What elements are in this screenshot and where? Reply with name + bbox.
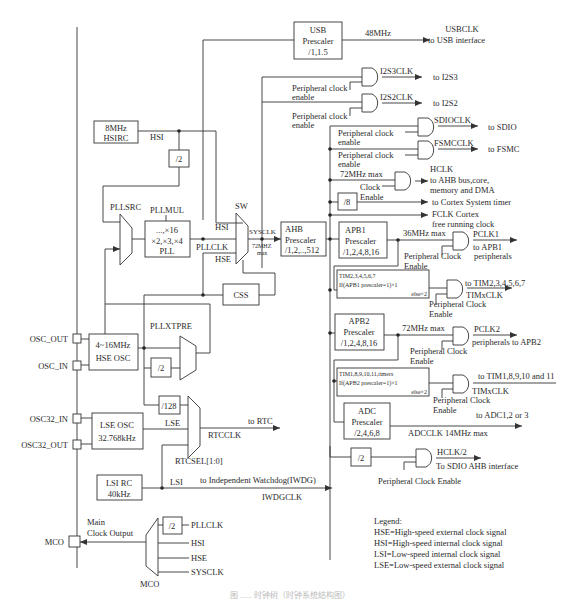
svg-text:else×2: else×2: [411, 389, 427, 395]
adc-prescaler: ADC Prescaler /2,4,6,8: [344, 403, 390, 439]
svg-text:peripherals to APB2: peripherals to APB2: [472, 337, 541, 347]
lse-osc-box: LSE OSC 32.768kHz: [92, 413, 143, 449]
hsi-rc-box: 8MHz HSIRC: [94, 121, 138, 143]
svg-text:Enable: Enable: [360, 192, 384, 202]
svg-text:/2: /2: [158, 363, 165, 373]
svg-text:Peripheral Clock Enable: Peripheral Clock Enable: [378, 476, 461, 486]
svg-text:If(APB2 prescaler=1)×1: If(APB2 prescaler=1)×1: [339, 380, 398, 387]
svg-text:SW: SW: [235, 201, 248, 211]
svg-text:Enable: Enable: [433, 405, 457, 415]
hse-osc-box: 4~16MHz HSE OSC: [89, 334, 138, 370]
mco-hse-label: HSE: [191, 553, 207, 563]
clock-tree-diagram: USB Prescaler /1,1.5 48MHz USBCLK to USB…: [0, 0, 586, 603]
lsi-label: LSI: [170, 477, 183, 487]
svg-text:/1,1.5: /1,1.5: [308, 47, 327, 57]
svg-text:PCLK1: PCLK1: [473, 229, 499, 239]
osc-out-pin: OSC_OUT: [30, 334, 81, 344]
svg-text:/2: /2: [176, 154, 183, 164]
main-clock-output-label: Main: [87, 517, 106, 527]
tim-apb1-gate: to TIM2,3,4,5,6,7 TIMxCLK Peripheral Clo…: [429, 278, 525, 319]
svg-text:to ADC1,2 or 3: to ADC1,2 or 3: [476, 410, 528, 420]
svg-text:AHB: AHB: [285, 224, 303, 234]
svg-text:to SDIO: to SDIO: [488, 122, 517, 132]
osc32-in-pin: OSC32_IN: [30, 414, 81, 424]
svg-text:/8: /8: [344, 197, 351, 207]
sdio-ahb-div2: /2: [351, 448, 371, 466]
hse-div2: /2: [151, 358, 171, 377]
svg-text:Enable: Enable: [429, 309, 453, 319]
svg-text:memory and DMA: memory and DMA: [430, 185, 496, 195]
svg-text:enable: enable: [338, 137, 360, 147]
sw-mux: SW HSI HSE: [215, 201, 248, 264]
mco-mux: MCO: [140, 518, 159, 589]
svg-text:72MHz max: 72MHz max: [402, 323, 445, 333]
usb-prescaler: USB Prescaler /1,1.5: [294, 22, 342, 59]
svg-text:×2,×3,×4: ×2,×3,×4: [151, 236, 183, 246]
svg-text:8MHz: 8MHz: [105, 123, 127, 133]
svg-text:4~16MHz: 4~16MHz: [96, 340, 131, 350]
svg-text:RTCSEL[1:0]: RTCSEL[1:0]: [175, 456, 223, 466]
svg-text:APB1: APB1: [345, 225, 366, 235]
svg-text:MCO: MCO: [140, 579, 159, 589]
sdio-gate: SDIOCLK to SDIO Peripheral clock enable: [330, 115, 517, 147]
svg-text:to I2S2: to I2S2: [433, 98, 458, 108]
svg-text:to TIM1,8,9,10 and 11: to TIM1,8,9,10 and 11: [478, 371, 555, 381]
systimer-divider: /8 to Cortex System timer: [328, 193, 511, 210]
svg-text:72MHZ: 72MHZ: [252, 243, 272, 249]
rtcclk-label: RTCCLK: [208, 430, 242, 440]
svg-text:I2S3CLK: I2S3CLK: [380, 66, 414, 76]
svg-text:APB2: APB2: [349, 316, 370, 326]
svg-text:FCLK Cortex: FCLK Cortex: [432, 209, 480, 219]
svg-text:Peripheral Clock: Peripheral Clock: [429, 299, 487, 309]
sdio-ahb-gate: HCLK/2 To SDIO AHB interface Peripheral …: [378, 447, 518, 486]
mco-hsi-label: HSI: [191, 538, 205, 548]
usb-freq-label: 48MHz: [365, 28, 391, 38]
lsi-rc-box: LSI RC 40kHz: [97, 475, 142, 500]
svg-text:/2: /2: [358, 453, 365, 463]
svg-text:HSI: HSI: [215, 222, 229, 232]
tim-apb1-box: TIM2,3,4,5,6,7 If(APB1 prescaler=1)×1 el…: [337, 270, 429, 298]
svg-text:40kHz: 40kHz: [108, 489, 131, 499]
svg-text:to AHB bus,core,: to AHB bus,core,: [430, 175, 489, 185]
svg-text:Legend:: Legend:: [374, 516, 402, 526]
mco-sysclk-label: SYSCLK: [191, 567, 224, 577]
pll-box: PLLMUL ...,×16 ×2,×3,×4 PLL: [145, 205, 190, 257]
svg-text:36MHz max: 36MHz max: [403, 228, 446, 238]
svg-text:To SDIO AHB interface: To SDIO AHB interface: [436, 461, 518, 471]
usbclk-label: USBCLK: [445, 24, 479, 34]
svg-text:Peripheral Clock: Peripheral Clock: [410, 346, 468, 356]
svg-text:Prescaler: Prescaler: [351, 417, 382, 427]
svg-text:ADCCLK 14MHz max: ADCCLK 14MHz max: [408, 428, 489, 438]
svg-text:/1,2,4,8,16: /1,2,4,8,16: [341, 338, 377, 348]
iwdg-label: to Independent Watchdog(IWDG): [200, 475, 316, 485]
svg-text:ADC: ADC: [358, 406, 376, 416]
svg-text:/2,4,6,8: /2,4,6,8: [354, 428, 380, 438]
pllsrc-mux: PLLSRC: [110, 202, 142, 265]
svg-text:CSS: CSS: [233, 290, 248, 300]
svg-text:HSE: HSE: [215, 254, 231, 264]
svg-text:Peripheral Clock: Peripheral Clock: [433, 395, 491, 405]
mco-pin: MCO: [45, 536, 80, 547]
svg-text:SDIOCLK: SDIOCLK: [434, 115, 472, 125]
svg-text:PLLMUL: PLLMUL: [150, 205, 184, 215]
svg-text:enable: enable: [292, 92, 314, 102]
svg-text:Enable: Enable: [404, 261, 428, 271]
svg-text:Prescaler: Prescaler: [302, 36, 333, 46]
iwdgclk-label: IWDGCLK: [262, 492, 303, 502]
svg-text:max: max: [257, 250, 267, 256]
svg-text:32.768kHz: 32.768kHz: [98, 433, 136, 443]
svg-text:PLLXTPRE: PLLXTPRE: [150, 321, 192, 331]
figure-caption: 图 ...... 时钟树（时钟系统结构图）: [230, 590, 350, 600]
osc-in-pin: OSC_IN: [38, 361, 81, 371]
mco-div2: /2: [163, 517, 182, 534]
svg-text:enable: enable: [338, 159, 360, 169]
svg-text:PLL: PLL: [159, 246, 174, 256]
svg-text:USB: USB: [310, 25, 327, 35]
svg-text:to Cortex System timer: to Cortex System timer: [432, 197, 511, 207]
legend-hsi: HSI=High-speed internal clock signal: [374, 538, 503, 548]
svg-text:...,×16: ...,×16: [156, 225, 178, 235]
tim-apb2-gate: to TIM1,8,9,10 and 11 TIMxCLK Peripheral…: [433, 371, 556, 415]
svg-text:Prescaler: Prescaler: [285, 235, 316, 245]
svg-text:OSC_IN: OSC_IN: [38, 361, 68, 371]
svg-text:HCLK/2: HCLK/2: [437, 447, 467, 457]
